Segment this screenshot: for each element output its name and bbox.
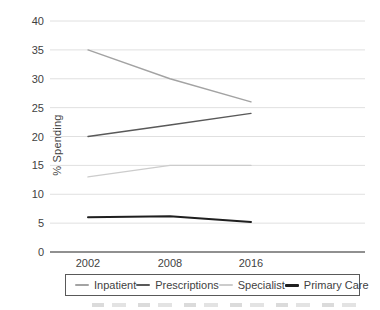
legend-line-swatch	[285, 284, 299, 287]
legend-label: Specialist	[238, 279, 285, 291]
x-tick-label: 2016	[229, 256, 273, 270]
legend-line-swatch	[136, 284, 150, 286]
y-tick-label: 5	[0, 215, 44, 231]
series-line-prescriptions	[88, 113, 251, 136]
series-line-inpatient	[88, 50, 251, 102]
y-tick-label: 40	[0, 13, 44, 29]
line-chart-plot	[50, 14, 365, 260]
x-tick-label: 2002	[66, 256, 110, 270]
legend-item-specialist: Specialist	[219, 279, 285, 291]
x-tick-label: 2008	[148, 256, 192, 270]
y-tick-label: 10	[0, 186, 44, 202]
y-tick-label: 25	[0, 100, 44, 116]
legend-line-swatch	[75, 284, 89, 286]
y-tick-label: 20	[0, 129, 44, 145]
legend-label: Primary Care	[304, 279, 369, 291]
legend-label: Inpatient	[94, 279, 136, 291]
series-line-specialist	[88, 165, 251, 177]
y-tick-label: 15	[0, 157, 44, 173]
series-line-primary-care	[88, 216, 251, 222]
legend-item-primary-care: Primary Care	[285, 279, 369, 291]
legend-item-inpatient: Inpatient	[75, 279, 136, 291]
legend: InpatientPrescriptionsSpecialistPrimary …	[65, 274, 360, 296]
y-tick-label: 30	[0, 71, 44, 87]
legend-label: Prescriptions	[155, 279, 219, 291]
y-tick-label: 35	[0, 42, 44, 58]
legend-item-prescriptions: Prescriptions	[136, 279, 219, 291]
cropped-caption-remnant	[92, 303, 364, 307]
legend-line-swatch	[219, 284, 233, 286]
y-tick-label: 0	[0, 244, 44, 260]
